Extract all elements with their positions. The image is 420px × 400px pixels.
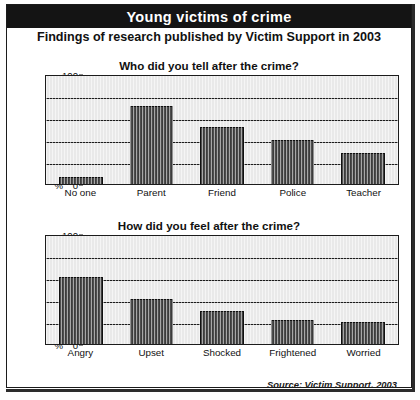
chart1-bars	[46, 76, 398, 184]
xlabel-teacher: Teacher	[328, 185, 399, 201]
bar-angry	[59, 277, 103, 344]
bar-police	[271, 140, 315, 184]
xlabel-police: Police	[257, 185, 328, 201]
xlabel-worried: Worried	[328, 345, 399, 361]
frame-shadow-right	[412, 4, 415, 392]
frame-shadow-bottom	[6, 389, 415, 392]
bar-shocked	[200, 311, 244, 344]
bar-slot	[257, 236, 327, 344]
xlabel-angry: Angry	[45, 345, 116, 361]
banner-title: Young victims of crime	[126, 9, 291, 25]
chart1-x-axis: No oneParentFriendPoliceTeacher	[45, 185, 399, 201]
bar-frightened	[271, 320, 315, 344]
chart-how-did-you-feel: How did you feel after the crime? 100806…	[7, 217, 411, 377]
chart2-plot	[45, 235, 399, 345]
source-note: Source: Victim Support, 2003	[267, 379, 397, 388]
bar-slot	[257, 76, 327, 184]
chart2-x-axis: AngryUpsetShockedFrightenedWorried	[45, 345, 399, 361]
xlabel-shocked: Shocked	[187, 345, 258, 361]
bar-slot	[328, 76, 398, 184]
xlabel-upset: Upset	[116, 345, 187, 361]
bar-slot	[187, 76, 257, 184]
chart2-plot-area: 100806040200%	[45, 235, 399, 345]
bar-slot	[46, 76, 116, 184]
bar-parent	[130, 106, 174, 184]
bar-upset	[130, 299, 174, 344]
chart1-plot-area: 100806040200%	[45, 75, 399, 185]
bar-slot	[328, 236, 398, 344]
chart-frame: Young victims of crime Findings of resea…	[6, 4, 412, 388]
xlabel-friend: Friend	[187, 185, 258, 201]
bar-friend	[200, 127, 244, 184]
bar-slot	[46, 236, 116, 344]
subtitle: Findings of research published by Victim…	[7, 30, 411, 44]
figure-root: Young victims of crime Findings of resea…	[0, 0, 420, 400]
bar-slot	[116, 76, 186, 184]
bar-teacher	[341, 153, 385, 184]
xlabel-parent: Parent	[116, 185, 187, 201]
bar-worried	[341, 322, 385, 344]
bar-no-one	[59, 177, 103, 184]
bar-slot	[116, 236, 186, 344]
xlabel-frightened: Frightened	[257, 345, 328, 361]
chart1-plot	[45, 75, 399, 185]
bar-slot	[187, 236, 257, 344]
xlabel-no-one: No one	[45, 185, 116, 201]
chart-who-did-you-tell: Who did you tell after the crime? 100806…	[7, 57, 411, 217]
chart2-bars	[46, 236, 398, 344]
header-banner: Young victims of crime	[7, 5, 411, 28]
